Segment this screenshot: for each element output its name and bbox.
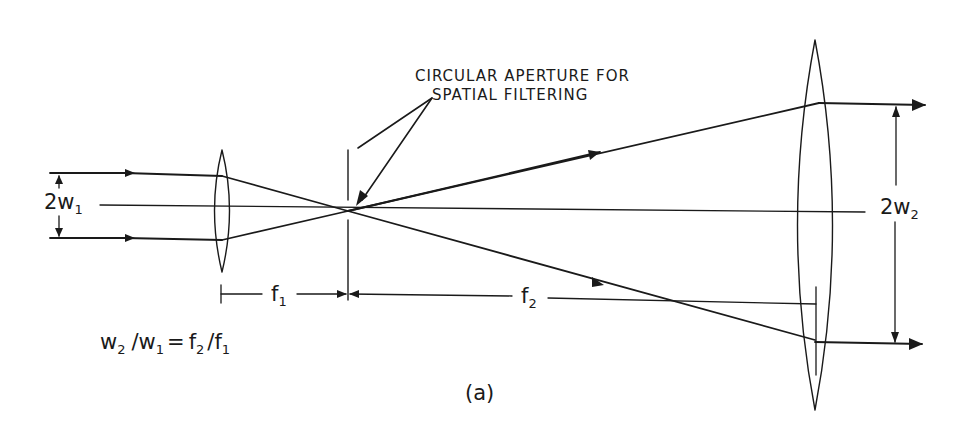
magnification-equation: w2/w1=f2/f1: [100, 330, 230, 357]
output-width-dimension: 2w2: [880, 106, 919, 343]
lens-2: [798, 40, 833, 410]
focal-length-1-label: f1: [271, 282, 287, 309]
annotation-line-2: SPATIAL FILTERING: [432, 86, 588, 104]
annotation-leader: [356, 98, 432, 206]
diverging-rays: [348, 103, 819, 340]
input-width-label: 2w1: [44, 190, 83, 217]
output-width-label: 2w2: [880, 195, 919, 222]
focal-length-1-dimension: f1: [221, 282, 347, 309]
annotation-line-1: CIRCULAR APERTURE FOR: [415, 67, 630, 85]
beam-expander-diagram: CIRCULAR APERTURE FOR SPATIAL FILTERING …: [0, 0, 962, 440]
input-width-dimension: 2w1: [44, 175, 83, 237]
focal-length-2-label: f2: [521, 284, 537, 311]
output-beam: [815, 99, 926, 350]
figure-caption: (a): [465, 381, 494, 405]
converging-rays: [222, 176, 348, 240]
focal-length-2-dimension: f2: [349, 284, 816, 375]
lens-1: [215, 150, 230, 272]
